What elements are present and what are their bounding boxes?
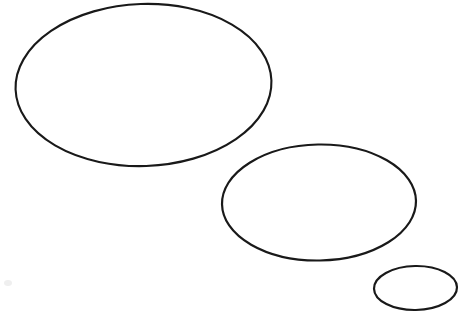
drawing-canvas	[0, 0, 471, 317]
faint-smudge-mark	[4, 280, 12, 286]
canvas-background	[0, 0, 471, 317]
ellipses-figure	[0, 0, 471, 317]
